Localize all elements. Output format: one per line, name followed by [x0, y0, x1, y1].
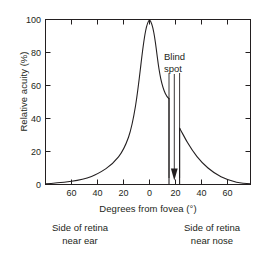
caption-nose-line1: Side of retina — [164, 222, 260, 235]
y-axis-title: Relative acuity (%) — [18, 32, 29, 152]
x-tick-label-minus20: 20 — [118, 188, 128, 198]
y-tick-label-100: 100 — [26, 15, 41, 25]
x-tick-label-minus60: 60 — [66, 188, 76, 198]
blind-spot-label: Blind spot — [164, 51, 185, 74]
x-tick-label-plus20: 20 — [170, 188, 180, 198]
y-tick-label-60: 60 — [31, 81, 41, 91]
y-tick-label-0: 0 — [36, 180, 41, 190]
caption-side-of-retina-near-nose: Side of retina near nose — [164, 222, 260, 247]
acuity-chart-plot: 100 80 60 40 20 0 — [0, 0, 263, 254]
blind-spot-label-line2: spot — [164, 63, 185, 75]
y-tick-label-40: 40 — [31, 114, 41, 124]
y-tick-label-80: 80 — [31, 48, 41, 58]
x-axis-title: Degrees from fovea (°) — [46, 203, 250, 214]
acuity-figure: 100 80 60 40 20 0 — [0, 0, 263, 254]
caption-ear-line2: near ear — [32, 235, 128, 248]
x-tick-label-plus60: 60 — [222, 188, 232, 198]
x-tick-labels: 60 40 20 0 20 40 60 — [66, 188, 232, 198]
x-tick-label-plus40: 40 — [196, 188, 206, 198]
plot-frame — [46, 20, 251, 185]
caption-ear-line1: Side of retina — [32, 222, 128, 235]
caption-side-of-retina-near-ear: Side of retina near ear — [32, 222, 128, 247]
plot-border — [46, 20, 251, 185]
x-tick-label-minus40: 40 — [92, 188, 102, 198]
y-tick-label-20: 20 — [31, 147, 41, 157]
blind-spot-label-line1: Blind — [164, 51, 185, 63]
caption-nose-line2: near nose — [164, 235, 260, 248]
x-tick-label-0: 0 — [147, 188, 152, 198]
